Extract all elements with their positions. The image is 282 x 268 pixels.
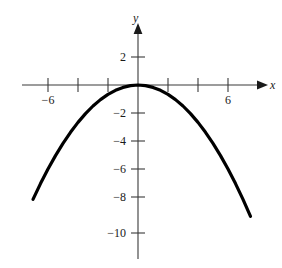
x-axis-arrow-icon (257, 81, 268, 90)
y-tick-label-neg10: −10 (92, 227, 126, 239)
y-axis-label: y (133, 12, 138, 24)
y-tick-label-neg2: −2 (98, 107, 126, 119)
x-tick-label-neg6: −6 (33, 94, 63, 106)
graph-figure: −6 6 2 −2 −4 −6 −8 −10 y x (0, 0, 282, 268)
y-tick-label-neg8: −8 (98, 191, 126, 203)
x-axis-label: x (270, 79, 275, 91)
plot-canvas (0, 0, 282, 268)
y-tick-label-pos2: 2 (98, 51, 126, 63)
y-tick-label-neg6: −6 (98, 163, 126, 175)
x-tick-label-pos6: 6 (213, 94, 243, 106)
y-tick-label-neg4: −4 (98, 135, 126, 147)
